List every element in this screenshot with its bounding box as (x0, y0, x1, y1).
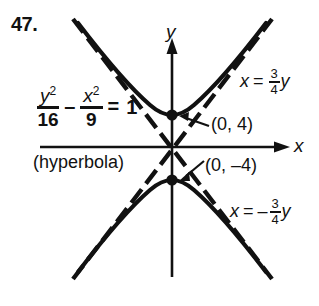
y-axis-label: y (166, 21, 176, 43)
asymptote-equals: = (253, 71, 264, 92)
hyperbola-equation: y2 16 – x2 9 = 1 (36, 86, 137, 129)
asymptote-var: x (240, 71, 249, 92)
asymptote-sign: – (258, 201, 268, 222)
asymptote-negative-label: x = – 3 4 y (230, 197, 291, 226)
asymptote-positive-label: x = 3 4 y (240, 67, 290, 96)
lower-vertex-label: (0, –4) (205, 155, 257, 176)
numerator-x-squared: x2 (80, 86, 102, 106)
asymptote-tail-var: y (282, 201, 291, 222)
equation-rhs: 1 (126, 96, 137, 119)
asymptote-fraction: 3 4 (269, 67, 280, 96)
fraction-x-squared-over-9: x2 9 (80, 86, 102, 129)
upper-vertex-dot (166, 109, 177, 120)
curve-type-label: (hyperbola) (33, 152, 124, 173)
asymptote-equals: = (243, 201, 254, 222)
asymptote-denominator: 4 (271, 213, 278, 227)
asymptote-numerator: 3 (271, 197, 278, 211)
minus-operator: – (64, 95, 75, 120)
lower-vertex-dot (166, 174, 177, 185)
x-axis-label: x (294, 135, 304, 157)
asymptote-numerator: 3 (270, 67, 277, 81)
equals-sign: = (108, 95, 120, 120)
numerator-y-squared: y2 (37, 86, 59, 106)
asymptote-denominator: 4 (270, 83, 277, 97)
denominator-16: 16 (38, 109, 59, 129)
x-axis (40, 142, 290, 153)
asymptote-tail-var: y (281, 71, 290, 92)
upper-vertex-label: (0, 4) (211, 114, 253, 135)
hyperbola-figure: 47. (0, 0, 319, 306)
asymptote-var: x (230, 201, 239, 222)
fraction-y-squared-over-16: y2 16 (37, 86, 59, 129)
denominator-9: 9 (86, 109, 97, 129)
asymptote-fraction: 3 4 (270, 197, 281, 226)
